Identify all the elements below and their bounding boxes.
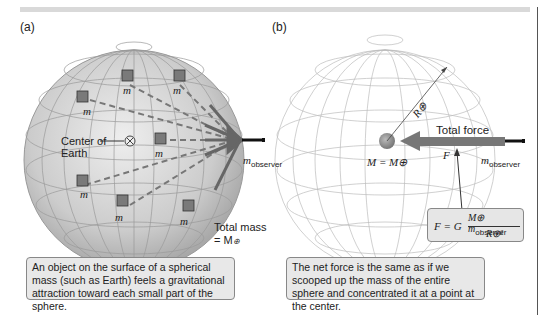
- force-label: F: [443, 149, 450, 161]
- caption-b: The net force is the same as if we scoop…: [286, 257, 485, 300]
- mass-label: m: [80, 188, 88, 200]
- total-mass-label: Total mass: [214, 221, 267, 233]
- total-force-label: Total force: [436, 124, 489, 136]
- total-mass-eq: = M⊕: [214, 234, 240, 248]
- center-of-earth-label-2: Earth: [61, 147, 87, 159]
- mass-label: m: [123, 84, 131, 96]
- fraction-bar: [468, 226, 520, 227]
- mass-label: m: [83, 105, 91, 117]
- mass-label: m: [155, 147, 163, 159]
- observer-label-a: mobserver: [243, 154, 282, 171]
- mass-label: m: [115, 211, 123, 223]
- caption-a: An object on the surface of a spherical …: [26, 257, 235, 300]
- mass-label: m: [180, 215, 188, 227]
- observer-label-b: mobserver: [481, 154, 520, 171]
- mass-equation: M = M⊕: [367, 156, 407, 168]
- force-formula: F = G M⊕ mobserver R⊕²: [427, 208, 524, 242]
- mass-label: m: [173, 84, 181, 96]
- center-of-earth-label: Center of: [61, 135, 106, 147]
